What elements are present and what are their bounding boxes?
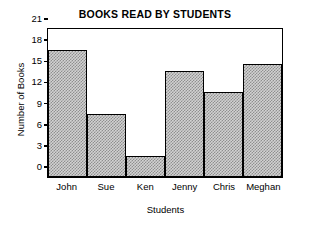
bar-series — [48, 29, 282, 177]
x-axis-tick-labels: JohnSueKenJennyChrisMeghan — [47, 181, 283, 192]
x-axis-tick-label: Ken — [126, 181, 165, 192]
bar-cell — [204, 29, 243, 177]
bar-cell — [48, 29, 87, 177]
y-axis-tick: 15 — [28, 56, 48, 66]
y-axis-tick-label: 18 — [28, 35, 42, 45]
bar-cell — [165, 29, 204, 177]
y-axis-tick-label: 12 — [28, 77, 42, 87]
y-axis-tick-label: 15 — [28, 56, 42, 66]
y-axis-tick-label: 6 — [28, 120, 42, 130]
x-axis-tick-label: Sue — [86, 181, 125, 192]
bar-john — [48, 50, 87, 177]
y-axis-tick: 12 — [28, 77, 48, 87]
y-axis-tick-label: 21 — [28, 14, 42, 24]
x-axis-tick-label: John — [47, 181, 86, 192]
y-axis-tick-label: 0 — [28, 162, 42, 172]
y-axis-tick: 3 — [28, 141, 48, 151]
y-axis-tick-label: 3 — [28, 141, 42, 151]
y-axis-tick-mark — [44, 18, 48, 20]
x-axis-tick-label: Chris — [204, 181, 243, 192]
y-axis-tick: 21 — [28, 14, 48, 24]
bar-chris — [204, 92, 243, 177]
plot-area: 036912151821 — [47, 28, 283, 178]
y-axis-tick-label: 9 — [28, 99, 42, 109]
bar-cell — [243, 29, 282, 177]
x-axis-title: Students — [47, 204, 284, 215]
bar-ken — [126, 156, 165, 177]
y-axis-tick: 18 — [28, 35, 48, 45]
x-axis-tick-label: Jenny — [165, 181, 204, 192]
bar-cell — [87, 29, 126, 177]
y-axis-title: Number of Books — [15, 40, 26, 160]
y-axis-tick: 9 — [28, 99, 48, 109]
bar-cell — [126, 29, 165, 177]
x-axis-tick-label: Meghan — [244, 181, 283, 192]
bar-chart-figure: BOOKS READ BY STUDENTS Number of Books 0… — [0, 0, 310, 227]
bar-jenny — [165, 71, 204, 177]
y-axis-tick: 0 — [28, 162, 48, 172]
y-axis-tick: 6 — [28, 120, 48, 130]
bar-sue — [87, 114, 126, 177]
bar-meghan — [243, 64, 282, 177]
